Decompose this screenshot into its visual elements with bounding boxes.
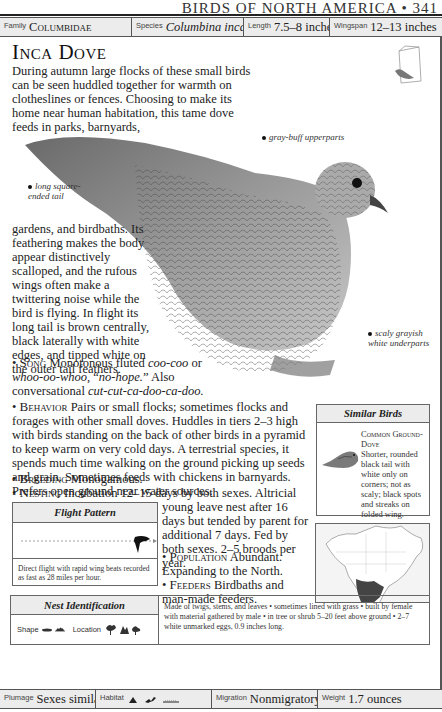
flight-path-icon [13,523,159,559]
flight-pattern-box: Flight Pattern Direct flight with rapid … [12,502,158,586]
nest-shape-icon [42,624,66,634]
species-value: Columbina inca [166,20,244,35]
breeding-section: • Breeding Monogamous. [12,472,312,486]
plumage-label: Plumage [4,693,34,702]
weight-value: 1.7 ounces [348,692,401,707]
flight-pattern-header: Flight Pattern [13,503,157,523]
family-label: Family [4,21,26,30]
flight-pattern-diagram [13,523,157,559]
wingspan-cell: Wingspan 12–13 inches [330,18,442,36]
nest-shape-location-row: Shape Location [11,615,158,643]
length-label: Length [248,21,271,30]
migration-cell: Migration Nonmigratory [212,690,318,708]
flight-pattern-caption: Direct flight with rapid wing beats reco… [13,559,157,587]
north-america-map-icon [316,524,430,603]
wingspan-label: Wingspan [334,21,367,30]
similar-birds-box: Similar Birds Common Ground-Dove Shorter… [316,404,430,516]
nest-identification-header: Nest Identification [11,596,158,615]
nest-location-icon [104,623,142,635]
weight-label: Weight [322,693,345,702]
length-value: 7.5–8 inches [274,20,330,35]
population-section: • Population Abundant. Expanding to the … [162,550,312,578]
plumage-cell: Plumage Sexes similar [0,690,96,708]
body-continuation: gardens, and birdbaths. Its feathering m… [12,222,157,376]
page-title: Inca Dove [12,40,106,65]
migration-label: Migration [216,693,247,702]
range-map [315,523,430,603]
callout-upperparts: gray-buff upperparts [262,132,372,142]
field-guide-icon [395,45,425,85]
callout-underparts: scaly grayish white underparts [368,328,438,348]
callout-dot [28,185,32,189]
intro-paragraph: During autumn large flocks of these smal… [12,64,262,134]
bottom-info-bar: Plumage Sexes similar Habitat Migration … [0,689,442,709]
top-info-bar: Family Columbidae Species Columbina inca… [0,17,442,37]
callout-dot [262,136,266,140]
species-cell: Species Columbina inca [132,18,244,36]
nest-description: Made of twigs, stems, and leaves • somet… [159,596,429,644]
nest-identification-left: Nest Identification Shape Location [11,596,159,644]
nesting-section: • Nesting Incubation 12–15 days by both … [12,486,312,500]
weight-cell: Weight 1.7 ounces [318,690,442,708]
similar-bird-name: Common Ground-Dove [361,429,423,449]
shape-label: Shape [17,625,39,634]
length-cell: Length 7.5–8 inches [244,18,330,36]
callout-tail: long square-ended tail [28,181,98,201]
habitat-cell: Habitat [96,690,212,708]
migration-value: Nonmigratory [250,692,318,707]
callout-dot [368,332,372,336]
similar-bird-text: Common Ground-Dove Shorter, rounded blac… [361,429,429,519]
family-cell: Family Columbidae [0,18,132,36]
location-label: Location [73,625,101,634]
top-rule [0,14,442,16]
plumage-value: Sexes similar [37,692,96,707]
habitat-label: Habitat [100,693,124,702]
wingspan-value: 12–13 inches [370,20,436,35]
habitat-icons [127,694,187,704]
similar-birds-header: Similar Birds [317,405,429,423]
song-section: • Song Monotonous fluted coo-coo or whoo… [12,356,212,398]
species-label: Species [136,21,163,30]
nest-identification-box: Nest Identification Shape Location Made … [10,595,430,645]
ground-dove-icon [320,449,360,471]
family-value: Columbidae [29,20,91,35]
similar-bird-description: Shorter, rounded black tail with white o… [361,449,429,519]
